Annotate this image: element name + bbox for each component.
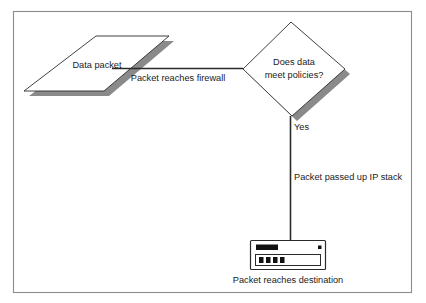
server-top-bar: [256, 245, 278, 251]
policy-decision-label-line1: Does data: [273, 57, 316, 67]
server-power-led: [318, 246, 322, 250]
flowchart-canvas: Data packet Packet reaches firewall Does…: [0, 0, 426, 303]
destination-server-icon: [251, 241, 326, 270]
flowchart-figure: Data packet Packet reaches firewall Does…: [0, 0, 426, 303]
packet-to-firewall-label: Packet reaches firewall: [131, 73, 225, 83]
server-panel: [256, 255, 321, 266]
policy-decision-label-line2: meet policies?: [265, 70, 324, 80]
decision-to-server-label: Packet passed up IP stack: [294, 172, 403, 182]
destination-server-label: Packet reaches destination: [233, 275, 343, 285]
server-port-1: [259, 257, 264, 263]
server-port-4: [280, 257, 285, 263]
yes-branch-label: Yes: [294, 122, 309, 132]
server-port-3: [273, 257, 278, 263]
server-port-2: [266, 257, 271, 263]
